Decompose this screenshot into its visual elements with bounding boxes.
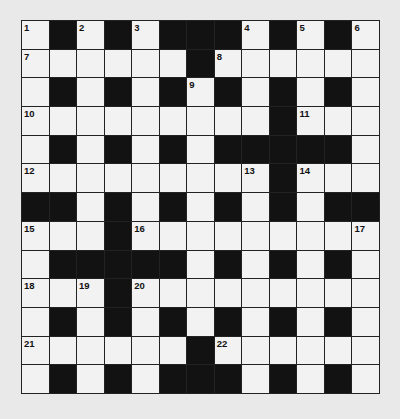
crossword-cell[interactable] bbox=[160, 50, 187, 78]
crossword-cell[interactable] bbox=[325, 222, 352, 250]
crossword-cell[interactable] bbox=[187, 136, 214, 164]
crossword-cell[interactable] bbox=[132, 50, 159, 78]
crossword-cell[interactable]: 15 bbox=[22, 222, 49, 250]
crossword-cell[interactable] bbox=[242, 308, 269, 336]
crossword-cell[interactable] bbox=[132, 78, 159, 106]
crossword-cell[interactable] bbox=[50, 107, 77, 135]
crossword-cell[interactable] bbox=[105, 50, 132, 78]
crossword-cell[interactable] bbox=[242, 279, 269, 307]
crossword-cell[interactable] bbox=[352, 50, 379, 78]
crossword-cell[interactable]: 9 bbox=[187, 78, 214, 106]
crossword-cell[interactable] bbox=[105, 107, 132, 135]
crossword-cell[interactable] bbox=[242, 193, 269, 221]
crossword-cell[interactable] bbox=[187, 251, 214, 279]
crossword-cell[interactable] bbox=[325, 337, 352, 365]
crossword-cell[interactable] bbox=[77, 337, 104, 365]
crossword-cell[interactable] bbox=[22, 308, 49, 336]
crossword-cell[interactable]: 8 bbox=[215, 50, 242, 78]
crossword-cell[interactable] bbox=[22, 78, 49, 106]
crossword-cell[interactable] bbox=[105, 337, 132, 365]
crossword-cell[interactable]: 20 bbox=[132, 279, 159, 307]
crossword-cell[interactable] bbox=[132, 337, 159, 365]
crossword-cell[interactable] bbox=[160, 164, 187, 192]
crossword-cell[interactable]: 18 bbox=[22, 279, 49, 307]
crossword-cell[interactable] bbox=[297, 308, 324, 336]
crossword-cell[interactable] bbox=[297, 337, 324, 365]
crossword-cell[interactable] bbox=[242, 251, 269, 279]
crossword-cell[interactable] bbox=[352, 107, 379, 135]
crossword-cell[interactable]: 10 bbox=[22, 107, 49, 135]
crossword-cell[interactable] bbox=[270, 222, 297, 250]
crossword-cell[interactable] bbox=[187, 308, 214, 336]
crossword-cell[interactable] bbox=[160, 107, 187, 135]
crossword-cell[interactable] bbox=[50, 222, 77, 250]
crossword-cell[interactable] bbox=[77, 78, 104, 106]
crossword-cell[interactable] bbox=[352, 279, 379, 307]
crossword-cell[interactable] bbox=[242, 50, 269, 78]
crossword-cell[interactable]: 5 bbox=[297, 21, 324, 49]
crossword-cell[interactable] bbox=[297, 193, 324, 221]
crossword-cell[interactable] bbox=[297, 50, 324, 78]
crossword-cell[interactable] bbox=[297, 365, 324, 393]
crossword-cell[interactable] bbox=[215, 279, 242, 307]
crossword-cell[interactable]: 4 bbox=[242, 21, 269, 49]
crossword-cell[interactable] bbox=[352, 365, 379, 393]
crossword-cell[interactable] bbox=[242, 107, 269, 135]
crossword-cell[interactable]: 16 bbox=[132, 222, 159, 250]
crossword-cell[interactable] bbox=[297, 78, 324, 106]
crossword-cell[interactable] bbox=[325, 164, 352, 192]
crossword-cell[interactable] bbox=[160, 222, 187, 250]
crossword-cell[interactable] bbox=[22, 365, 49, 393]
crossword-cell[interactable] bbox=[297, 222, 324, 250]
crossword-cell[interactable] bbox=[77, 365, 104, 393]
crossword-cell[interactable] bbox=[160, 279, 187, 307]
crossword-cell[interactable] bbox=[132, 365, 159, 393]
crossword-cell[interactable] bbox=[325, 107, 352, 135]
crossword-cell[interactable] bbox=[297, 251, 324, 279]
crossword-cell[interactable] bbox=[187, 222, 214, 250]
crossword-cell[interactable] bbox=[215, 164, 242, 192]
crossword-cell[interactable] bbox=[242, 78, 269, 106]
crossword-cell[interactable]: 19 bbox=[77, 279, 104, 307]
crossword-cell[interactable] bbox=[270, 337, 297, 365]
crossword-cell[interactable] bbox=[77, 222, 104, 250]
crossword-cell[interactable] bbox=[242, 337, 269, 365]
crossword-cell[interactable] bbox=[77, 308, 104, 336]
crossword-cell[interactable] bbox=[297, 279, 324, 307]
crossword-cell[interactable] bbox=[242, 365, 269, 393]
crossword-cell[interactable] bbox=[50, 164, 77, 192]
crossword-cell[interactable] bbox=[352, 308, 379, 336]
crossword-cell[interactable] bbox=[22, 136, 49, 164]
crossword-cell[interactable] bbox=[187, 193, 214, 221]
crossword-cell[interactable] bbox=[22, 251, 49, 279]
crossword-cell[interactable] bbox=[352, 164, 379, 192]
crossword-cell[interactable]: 22 bbox=[215, 337, 242, 365]
crossword-cell[interactable]: 2 bbox=[77, 21, 104, 49]
crossword-cell[interactable] bbox=[77, 107, 104, 135]
crossword-cell[interactable] bbox=[352, 337, 379, 365]
crossword-cell[interactable]: 21 bbox=[22, 337, 49, 365]
crossword-cell[interactable] bbox=[132, 164, 159, 192]
crossword-cell[interactable] bbox=[50, 337, 77, 365]
crossword-cell[interactable]: 17 bbox=[352, 222, 379, 250]
crossword-cell[interactable] bbox=[215, 107, 242, 135]
crossword-cell[interactable] bbox=[352, 78, 379, 106]
crossword-cell[interactable] bbox=[325, 50, 352, 78]
crossword-cell[interactable] bbox=[77, 164, 104, 192]
crossword-cell[interactable] bbox=[132, 193, 159, 221]
crossword-cell[interactable] bbox=[77, 50, 104, 78]
crossword-cell[interactable] bbox=[77, 193, 104, 221]
crossword-cell[interactable] bbox=[270, 50, 297, 78]
crossword-cell[interactable] bbox=[77, 136, 104, 164]
crossword-cell[interactable]: 6 bbox=[352, 21, 379, 49]
crossword-cell[interactable] bbox=[187, 164, 214, 192]
crossword-cell[interactable] bbox=[242, 222, 269, 250]
crossword-cell[interactable]: 14 bbox=[297, 164, 324, 192]
crossword-cell[interactable]: 13 bbox=[242, 164, 269, 192]
crossword-cell[interactable] bbox=[270, 279, 297, 307]
crossword-cell[interactable] bbox=[352, 136, 379, 164]
crossword-cell[interactable] bbox=[325, 279, 352, 307]
crossword-cell[interactable] bbox=[187, 279, 214, 307]
crossword-cell[interactable] bbox=[132, 136, 159, 164]
crossword-cell[interactable] bbox=[132, 308, 159, 336]
